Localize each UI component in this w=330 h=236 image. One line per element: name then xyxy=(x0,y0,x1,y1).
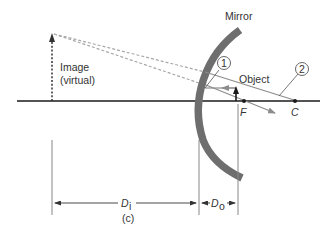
focal-point-label: F xyxy=(240,106,247,118)
mirror-label: Mirror xyxy=(225,10,253,22)
image-distance-dimension: D i xyxy=(55,197,196,212)
svg-text:i: i xyxy=(129,200,131,212)
image-label: Image xyxy=(60,61,89,73)
svg-text:D: D xyxy=(211,197,219,209)
svg-text:1: 1 xyxy=(221,57,227,69)
callout-2: 2 xyxy=(279,63,309,97)
concave-mirror-diagram: 1 2 Mirror Image (virtual) Object F C D … xyxy=(0,0,330,236)
center-of-curvature-label: C xyxy=(291,106,299,118)
focal-point-dot xyxy=(242,99,246,103)
object-distance-dimension: D o xyxy=(202,197,235,212)
panel-label: (c) xyxy=(122,212,134,224)
image-virtual-label: (virtual) xyxy=(60,74,95,86)
svg-text:D: D xyxy=(121,197,129,209)
center-of-curvature-dot xyxy=(293,99,297,103)
svg-text:o: o xyxy=(219,200,225,212)
object-label: Object xyxy=(239,73,269,85)
concave-mirror xyxy=(198,30,242,178)
virtual-image-arrow xyxy=(49,33,55,101)
svg-text:2: 2 xyxy=(299,63,305,75)
